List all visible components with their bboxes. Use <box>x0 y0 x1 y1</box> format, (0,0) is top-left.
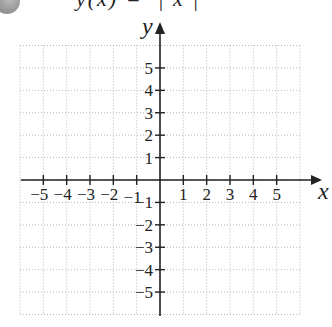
x-tick-label: 1 <box>179 185 188 204</box>
y-tick-label: −4 <box>135 261 154 280</box>
chart-stage: y(x) = | x | −5−4−3−2−112345−5−4−3−2−112… <box>0 0 332 327</box>
x-tick-label: 2 <box>202 185 211 204</box>
y-tick-label: −3 <box>135 238 153 257</box>
x-axis-label: x <box>317 178 329 204</box>
y-axis-label: y <box>140 13 153 39</box>
x-tick-label: 3 <box>226 185 235 204</box>
y-axis-arrow-icon <box>155 22 165 34</box>
y-tick-label: −5 <box>135 283 153 302</box>
equation-fragment: y(x) = | x | <box>76 0 200 12</box>
y-tick-label: 3 <box>145 104 154 123</box>
x-tick-label: −5 <box>30 185 48 204</box>
y-tick-label: 5 <box>145 59 154 78</box>
x-tick-label: 5 <box>272 185 281 204</box>
x-tick-label: 4 <box>249 185 258 204</box>
y-tick-label: −2 <box>135 216 153 235</box>
y-tick-label: 2 <box>145 126 154 145</box>
coordinate-plane: −5−4−3−2−112345−5−4−3−2−112345 x y <box>0 0 332 327</box>
y-tick-label: −1 <box>135 193 153 212</box>
x-tick-label: −3 <box>77 185 95 204</box>
y-tick-label: 4 <box>145 81 154 100</box>
y-tick-label: 1 <box>145 149 154 168</box>
x-tick-label: −4 <box>54 185 73 204</box>
x-tick-label: −2 <box>100 185 118 204</box>
